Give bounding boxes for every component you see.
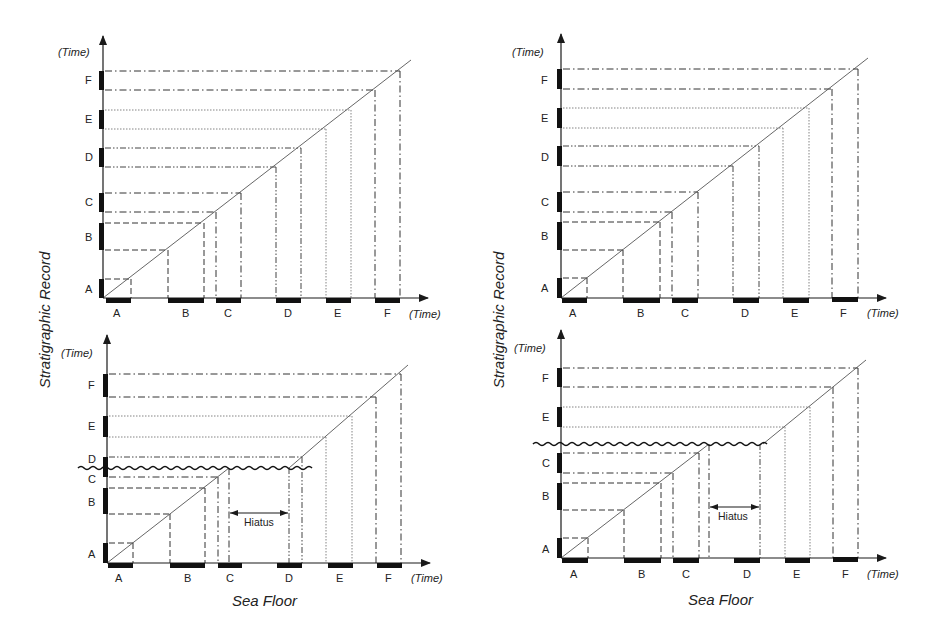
svg-text:E: E — [334, 307, 341, 319]
svg-text:C: C — [88, 473, 96, 485]
svg-text:F: F — [384, 307, 391, 319]
svg-text:E: E — [336, 572, 343, 584]
svg-text:(Time): (Time) — [867, 568, 899, 580]
svg-text:F: F — [85, 74, 92, 86]
panel-bottom-left: Hiatus (Time) (Time) A B C D E F A B C D… — [61, 335, 443, 609]
panel-bottom-right: Hiatus (Time) (Time) A B C E F A B C D E… — [514, 330, 899, 608]
unconformity-line — [533, 443, 767, 446]
unconformity-line — [78, 467, 312, 470]
svg-text:(Time): (Time) — [514, 342, 546, 354]
panel-top-left: (Time) (Time) A B C D E F A B C D E F — [58, 36, 441, 320]
svg-text:B: B — [88, 496, 95, 508]
svg-text:B: B — [182, 307, 189, 319]
svg-text:C: C — [224, 307, 232, 319]
svg-text:A: A — [542, 543, 550, 555]
svg-text:D: D — [743, 568, 751, 580]
svg-text:(Time): (Time) — [409, 308, 441, 320]
svg-text:F: F — [385, 572, 392, 584]
hiatus-label: Hiatus — [718, 510, 748, 522]
svg-text:B: B — [637, 307, 644, 319]
svg-text:D: D — [741, 307, 749, 319]
svg-text:A: A — [569, 307, 577, 319]
svg-text:F: F — [541, 74, 548, 86]
svg-text:C: C — [681, 307, 689, 319]
stratigraphy-figure: Stratigraphic Record Stratigraphic Recor… — [0, 0, 938, 639]
svg-text:B: B — [184, 572, 191, 584]
svg-text:D: D — [85, 151, 93, 163]
svg-text:E: E — [791, 307, 798, 319]
svg-text:E: E — [793, 568, 800, 580]
y-axis-title-right: Stratigraphic Record — [490, 251, 507, 388]
panel-top-right: (Time) (Time) A B C D E F A B C D E F — [512, 34, 899, 319]
y-axis-title-left: Stratigraphic Record — [36, 251, 53, 388]
svg-text:(Time): (Time) — [867, 307, 899, 319]
svg-text:B: B — [541, 230, 548, 242]
x-axis-title-left: Sea Floor — [232, 592, 298, 609]
svg-text:(Time): (Time) — [61, 347, 93, 359]
svg-text:F: F — [88, 379, 95, 391]
svg-text:C: C — [85, 196, 93, 208]
svg-text:B: B — [85, 231, 92, 243]
svg-text:C: C — [226, 572, 234, 584]
svg-text:F: F — [840, 307, 847, 319]
svg-text:E: E — [85, 113, 92, 125]
svg-text:D: D — [541, 151, 549, 163]
svg-text:A: A — [541, 282, 549, 294]
svg-text:E: E — [88, 420, 95, 432]
svg-text:B: B — [542, 490, 549, 502]
svg-text:A: A — [85, 283, 93, 295]
svg-text:D: D — [88, 453, 96, 465]
svg-text:A: A — [88, 548, 96, 560]
svg-text:A: A — [115, 572, 123, 584]
svg-text:B: B — [638, 568, 645, 580]
svg-text:(Time): (Time) — [512, 46, 544, 58]
svg-text:D: D — [284, 307, 292, 319]
svg-text:F: F — [842, 568, 849, 580]
svg-text:(Time): (Time) — [58, 46, 90, 58]
svg-text:(Time): (Time) — [411, 572, 443, 584]
svg-text:F: F — [542, 372, 549, 384]
svg-text:Stratigraphic Record: Stratigraphic Record — [36, 251, 53, 388]
svg-text:E: E — [541, 112, 548, 124]
svg-text:A: A — [570, 568, 578, 580]
svg-text:C: C — [682, 568, 690, 580]
svg-text:C: C — [541, 196, 549, 208]
svg-text:C: C — [542, 457, 550, 469]
svg-text:A: A — [113, 307, 121, 319]
x-axis-title-right: Sea Floor — [688, 591, 754, 608]
svg-text:E: E — [542, 411, 549, 423]
svg-text:Stratigraphic Record: Stratigraphic Record — [490, 251, 507, 388]
hiatus-label: Hiatus — [244, 516, 274, 528]
svg-text:D: D — [285, 572, 293, 584]
